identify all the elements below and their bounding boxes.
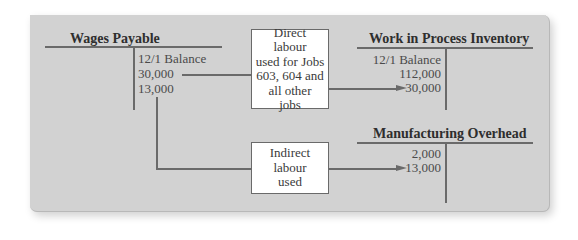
account-title-wages-payable: Wages Payable (70, 31, 160, 47)
entry-direct-labour-amount: 30,000 (138, 67, 174, 82)
account-title-wip: Work in Process Inventory (369, 31, 529, 47)
entry-balance-label: 12/1 Balance (138, 52, 206, 67)
entry-direct-labour-amount: 30,000 (360, 81, 441, 96)
box-line: used for Jobs (252, 55, 328, 70)
entry-indirect-labour-amount: 13,000 (360, 161, 441, 176)
account-title-moh: Manufacturing Overhead (373, 126, 527, 142)
t-account-vertical-line (445, 47, 447, 110)
direct-labour-box: Direct labour used for Jobs 603, 604 and… (251, 29, 329, 109)
box-line: 603, 604 and (252, 69, 328, 84)
box-line: jobs (252, 98, 328, 113)
t-account-vertical-line (445, 142, 447, 203)
box-line: Direct (252, 26, 328, 41)
t-account-vertical-line (133, 46, 135, 110)
indirect-labour-box: Indirect labour used (251, 142, 329, 194)
entry-indirect-labour-amount: 13,000 (138, 82, 174, 97)
box-line: labour (252, 161, 328, 176)
box-line: Indirect (252, 146, 328, 161)
connector-wages-down (156, 97, 158, 169)
box-line: labour (252, 40, 328, 55)
box-line: all other (252, 84, 328, 99)
box-line: used (252, 175, 328, 190)
connector-wages-to-indirect-box (156, 168, 251, 170)
connector-wages-to-direct-box (182, 74, 251, 76)
